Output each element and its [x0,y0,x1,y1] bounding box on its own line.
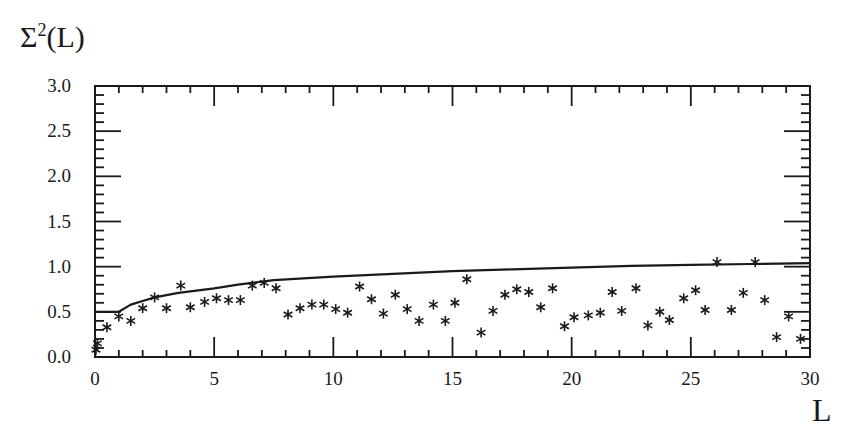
data-point-asterisk [138,303,147,313]
data-point-asterisk [319,300,328,310]
data-point-asterisk [367,294,376,304]
x-tick-label: 10 [324,368,343,389]
data-point-asterisk [477,328,486,338]
data-point-asterisk [739,288,748,298]
x-tick-label: 5 [209,368,219,389]
data-point-asterisk [584,310,593,320]
data-point-asterisk [272,283,281,293]
data-point-asterisk [570,312,579,322]
data-point-asterisk [617,306,626,316]
data-point-asterisk [92,345,101,355]
data-point-asterisk [560,321,569,331]
data-point-asterisk [548,283,557,293]
data-point-asterisk [441,316,450,326]
data-point-asterisk [632,283,641,293]
x-tick-label: 30 [801,368,820,389]
data-point-asterisk [415,316,424,326]
data-point-asterisk [524,287,533,297]
data-point-asterisk [655,307,664,317]
data-point-asterisk [260,278,269,288]
data-point-asterisk [489,306,498,316]
plot-border [95,86,810,357]
y-tick-label: 3.0 [47,75,71,96]
axis-ticks [95,86,810,357]
data-point-asterisk [379,309,388,319]
data-point-asterisk [331,304,340,314]
plot-frame [95,86,810,357]
data-point-asterisk [451,298,460,308]
data-point-asterisk [727,305,736,315]
data-point-asterisk [284,310,293,320]
data-point-asterisk [512,284,521,294]
data-point-asterisk [784,311,793,321]
data-point-asterisk [760,295,769,305]
data-point-asterisk [429,300,438,310]
data-point-asterisk [462,274,471,284]
chart-plot: 0510152025300.00.51.01.52.02.53.0 [0,0,847,440]
data-point-asterisk [691,285,700,295]
data-point-asterisk [608,287,617,297]
x-tick-label: 0 [90,368,100,389]
data-point-asterisk [772,332,781,342]
x-tick-label: 25 [681,368,700,389]
data-point-asterisk [391,290,400,300]
data-point-asterisk [176,281,185,291]
x-tick-label: 20 [562,368,581,389]
data-point-asterisk [536,302,545,312]
tick-labels: 0510152025300.00.51.01.52.02.53.0 [47,75,819,389]
data-point-asterisk [212,293,221,303]
data-point-asterisk [162,303,171,313]
data-point-asterisk [343,308,352,318]
data-point-asterisk [701,305,710,315]
data-point-asterisk [596,308,605,318]
data-point-asterisk [236,295,245,305]
y-tick-label: 2.0 [47,165,71,186]
data-point-asterisk [501,290,510,300]
data-point-asterisk [186,302,195,312]
y-tick-label: 1.5 [47,211,71,232]
data-point-asterisk [200,297,209,307]
data-point-asterisk [751,257,760,267]
data-point-asterisk [679,293,688,303]
data-point-asterisk [355,282,364,292]
data-point-asterisk [403,304,412,314]
x-tick-label: 15 [443,368,462,389]
y-tick-label: 0.5 [47,301,71,322]
y-tick-label: 2.5 [47,120,71,141]
y-tick-label: 1.0 [47,256,71,277]
y-tick-label: 0.0 [47,346,71,367]
data-point-asterisk [126,316,135,326]
data-point-asterisk [308,300,317,310]
data-point-asterisk [224,295,233,305]
data-point-asterisk [665,315,674,325]
data-point-asterisk [644,320,653,330]
data-point-asterisk [296,303,305,313]
